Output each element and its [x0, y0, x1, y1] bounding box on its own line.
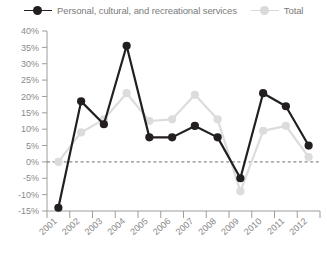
data-point: [259, 89, 267, 97]
data-point: [77, 97, 85, 105]
y-axis-tick-label: 20%: [21, 92, 39, 102]
x-axis: 2001200220032004200520062007200820092010…: [37, 211, 320, 237]
x-axis-tick-label: 2009: [219, 216, 241, 237]
data-point: [168, 133, 176, 141]
x-axis-tick-label: 2011: [265, 216, 286, 236]
x-axis-tick-labels: 2001200220032004200520062007200820092010…: [37, 216, 309, 237]
y-axis-tick-label: 0%: [26, 157, 39, 167]
chart-legend: Personal, cultural, and recreational ser…: [24, 0, 324, 20]
data-point: [214, 115, 222, 123]
y-axis-tick-label: -15%: [18, 206, 39, 216]
series-points-total: [54, 89, 312, 195]
data-point: [191, 122, 199, 130]
data-point: [282, 122, 290, 130]
legend-entry-total[interactable]: Total: [251, 5, 304, 16]
y-axis-tick-label: 5%: [26, 141, 39, 151]
data-point: [100, 120, 108, 128]
data-point: [282, 102, 290, 110]
legend-label-total: Total: [284, 5, 304, 16]
x-axis-tick-label: 2006: [151, 216, 173, 237]
x-axis-tick-label: 2005: [128, 216, 150, 237]
data-point: [168, 115, 176, 123]
data-point: [191, 91, 199, 99]
data-point: [236, 187, 244, 195]
y-axis-tick-labels: 40%35%30%25%20%15%10%5%0%-5%-10%-15%: [18, 26, 39, 216]
data-point: [123, 42, 131, 50]
data-point: [123, 89, 131, 97]
data-point: [214, 133, 222, 141]
line-chart-svg: 40%35%30%25%20%15%10%5%0%-5%-10%-15% 200…: [0, 18, 327, 258]
x-axis-tick-label: 2002: [60, 216, 82, 237]
data-point: [259, 127, 267, 135]
legend-entry-personal-cultural-recreational[interactable]: Personal, cultural, and recreational ser…: [24, 5, 237, 16]
y-axis-tick-label: -10%: [18, 190, 39, 200]
data-point: [77, 128, 85, 136]
data-point: [54, 158, 62, 166]
y-axis-tick-label: -5%: [23, 173, 39, 183]
x-axis-tick-label: 2007: [174, 216, 196, 237]
data-point: [305, 141, 313, 149]
dark-circle-marker-icon: [24, 5, 52, 16]
series-line-total: [58, 93, 308, 191]
x-axis-tick-label: 2001: [37, 216, 59, 237]
series-line-personal-cultural-recreational: [58, 46, 308, 208]
y-axis: 40%35%30%25%20%15%10%5%0%-5%-10%-15%: [18, 26, 47, 216]
y-axis-tick-label: 25%: [21, 75, 39, 85]
y-axis-tick-label: 40%: [21, 26, 39, 36]
x-axis-tick-label: 2003: [83, 216, 105, 237]
data-point: [305, 153, 313, 161]
x-axis-tick-label: 2008: [196, 216, 218, 237]
x-axis-tick-label: 2004: [105, 216, 127, 237]
x-axis-tick-label: 2010: [242, 216, 264, 237]
y-axis-ticks: [42, 31, 47, 211]
legend-label-personal-cultural-recreational: Personal, cultural, and recreational ser…: [57, 5, 237, 16]
data-point: [54, 204, 62, 212]
x-axis-tick-label: 2012: [287, 216, 309, 237]
y-axis-tick-label: 35%: [21, 43, 39, 53]
y-axis-tick-label: 30%: [21, 59, 39, 69]
y-axis-tick-label: 15%: [21, 108, 39, 118]
data-point: [236, 174, 244, 182]
y-axis-tick-label: 10%: [21, 124, 39, 134]
chart-container: Personal, cultural, and recreational ser…: [0, 0, 327, 258]
plot-area: 40%35%30%25%20%15%10%5%0%-5%-10%-15% 200…: [0, 18, 327, 258]
light-circle-marker-icon: [251, 5, 279, 16]
data-point: [145, 133, 153, 141]
